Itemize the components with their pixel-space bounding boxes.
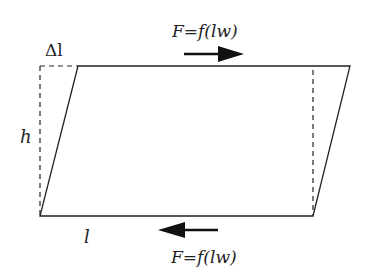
bottom-force-label: F=f(lw) — [170, 247, 237, 267]
top-force-arrow — [184, 46, 244, 62]
top-force-label: F=f(lw) — [171, 21, 238, 41]
height-label: h — [20, 126, 32, 147]
bottom-force-arrow — [158, 222, 218, 238]
length-label: l — [84, 226, 90, 247]
shear-diagram: Δl h l F=f(lw) F=f(lw) — [0, 0, 372, 277]
delta-l-label: Δl — [45, 40, 63, 60]
sheared-block — [40, 66, 350, 216]
